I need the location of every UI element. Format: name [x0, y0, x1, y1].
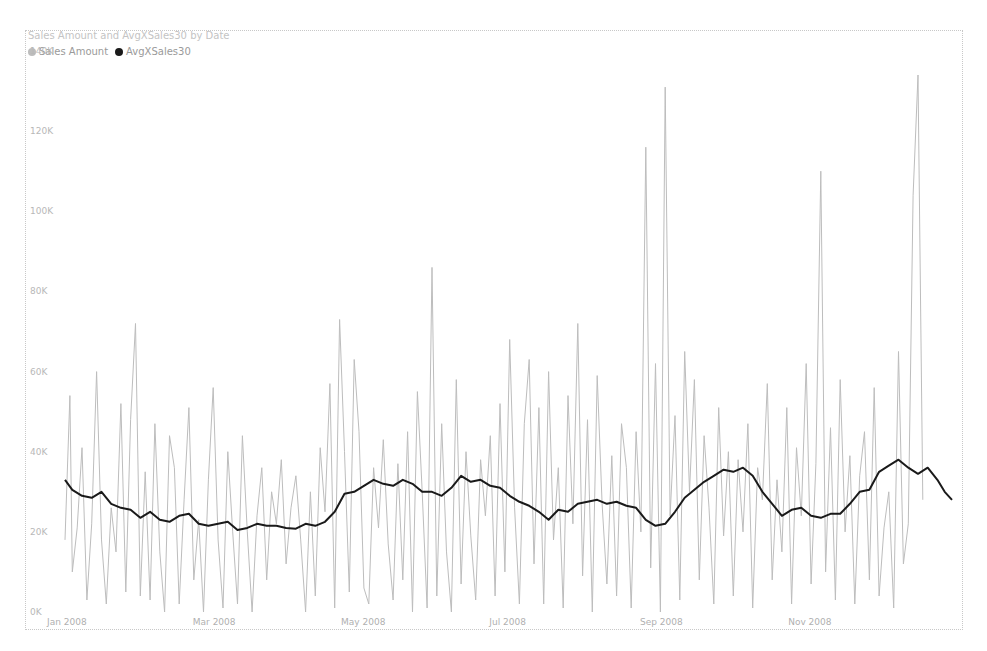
series-line — [65, 75, 923, 612]
x-tick-label: Jan 2008 — [46, 617, 87, 627]
x-tick-label: Jul 2008 — [488, 617, 526, 627]
x-axis: Jan 2008Mar 2008May 2008Jul 2008Sep 2008… — [46, 617, 832, 627]
series-line — [65, 460, 952, 530]
x-tick-label: Sep 2008 — [640, 617, 683, 627]
y-tick-label: 20K — [30, 527, 48, 537]
y-tick-label: 0K — [30, 607, 43, 617]
x-tick-label: Nov 2008 — [788, 617, 832, 627]
y-axis: 0K20K40K60K80K100K120K140K — [30, 46, 54, 617]
y-tick-label: 120K — [30, 126, 54, 136]
y-tick-label: 100K — [30, 206, 54, 216]
y-tick-label: 80K — [30, 286, 48, 296]
y-tick-label: 40K — [30, 447, 48, 457]
series-avgxsales30 — [65, 460, 952, 530]
y-tick-label: 140K — [30, 46, 54, 56]
x-tick-label: Mar 2008 — [193, 617, 236, 627]
y-tick-label: 60K — [30, 367, 48, 377]
series-sales-amount — [65, 75, 923, 612]
x-tick-label: May 2008 — [341, 617, 386, 627]
chart-plot-area[interactable]: 0K20K40K60K80K100K120K140K Jan 2008Mar 2… — [0, 0, 987, 651]
